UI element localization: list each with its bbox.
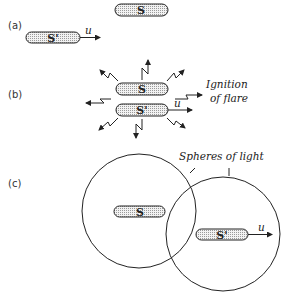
panel-a-label: (a)	[8, 20, 22, 31]
leader-line-1	[190, 168, 195, 173]
source-s-prime: S'	[116, 104, 168, 117]
relativity-diagram: (a) S S' u (b) S S' u	[0, 0, 288, 295]
ray-upper-right-icon	[167, 70, 184, 81]
light-rays	[86, 60, 202, 138]
ignition-label-line1: Ignition	[205, 78, 248, 90]
source-s: S	[116, 83, 168, 96]
velocity-label: u	[85, 24, 92, 36]
source-s: S	[114, 206, 165, 219]
svg-text:S: S	[136, 206, 144, 219]
ray-up-icon	[142, 60, 148, 80]
ray-down-icon	[136, 119, 142, 138]
svg-text:S': S'	[136, 104, 147, 117]
velocity-label: u	[258, 221, 265, 233]
svg-text:S': S'	[216, 229, 227, 242]
panel-c: (c) S S' u Spheres of light	[8, 150, 280, 291]
spheres-of-light-label: Spheres of light	[179, 150, 265, 162]
panel-a: (a) S S' u	[8, 4, 168, 45]
ray-lower-left-icon	[99, 118, 118, 130]
ignition-label-line2: of flare	[210, 92, 248, 104]
ray-lower-right-icon	[167, 118, 185, 128]
ray-left-icon	[86, 99, 111, 103]
source-s: S	[115, 4, 168, 17]
panel-b-label: (b)	[8, 89, 22, 100]
svg-text:S: S	[137, 4, 145, 17]
source-s-prime: S'	[196, 229, 248, 242]
panel-b: (b) S S' u Ignition of flare	[8, 60, 248, 138]
svg-text:S: S	[138, 83, 146, 96]
ray-upper-left-icon	[100, 70, 118, 81]
svg-text:S': S'	[47, 32, 58, 45]
source-s-prime: S'	[26, 32, 80, 45]
panel-c-label: (c)	[8, 178, 21, 189]
